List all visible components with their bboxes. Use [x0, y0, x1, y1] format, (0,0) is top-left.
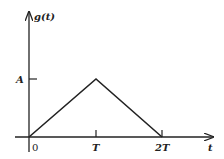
y-axis-label: g(t) [34, 11, 55, 22]
x-tick-label-2t: 2T [154, 142, 171, 153]
x-tick-label-t: T [92, 142, 101, 153]
amplitude-label: A [15, 74, 24, 85]
triangle-signal [29, 79, 162, 137]
triangle-pulse-diagram: g(t) A 0 T 2T t [0, 0, 224, 159]
x-axis-label: t [208, 142, 213, 153]
x-tick-label-0: 0 [32, 142, 38, 153]
